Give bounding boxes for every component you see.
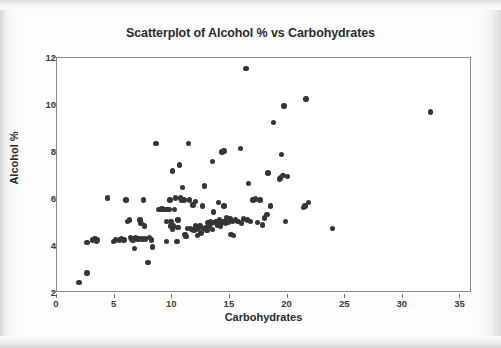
y-axis-tick-mark	[52, 245, 56, 246]
scatter-point	[221, 148, 226, 153]
scatter-point	[243, 66, 248, 71]
scatter-point	[94, 239, 99, 244]
x-axis-tick-mark	[114, 294, 115, 298]
scatter-point	[200, 203, 205, 208]
scatter-point	[183, 234, 188, 239]
scatter-point	[127, 217, 132, 222]
scatter-point	[164, 239, 169, 244]
y-axis-tick-mark	[52, 104, 56, 105]
scatter-point	[303, 96, 308, 101]
scatter-point	[330, 226, 335, 231]
chart-page: Scatterplot of Alcohol % vs Carbohydrate…	[0, 0, 501, 348]
x-axis-tick-label: 15	[217, 298, 241, 309]
scatter-point	[105, 195, 110, 200]
x-axis-tick-mark	[171, 294, 172, 298]
scatter-point	[248, 219, 253, 224]
scatter-point	[177, 162, 182, 167]
y-axis-label: Alcohol %	[8, 118, 20, 198]
scatter-point	[149, 237, 154, 242]
scatter-point	[231, 233, 236, 238]
scatter-point	[186, 141, 191, 146]
x-axis-tick-label: 0	[44, 298, 68, 309]
scatter-point	[193, 199, 198, 204]
scatter-point	[142, 223, 147, 228]
scatter-point	[202, 183, 207, 188]
scatter-point	[285, 174, 290, 179]
y-axis-tick-mark	[52, 292, 56, 293]
x-axis-tick-mark	[56, 294, 57, 298]
x-axis-tick-label: 35	[447, 298, 471, 309]
scatter-point	[121, 237, 126, 242]
scatter-point	[260, 222, 265, 227]
scatter-point	[239, 221, 244, 226]
x-axis-tick-label: 5	[102, 298, 126, 309]
scatter-point	[216, 200, 221, 205]
x-axis-tick-mark	[459, 294, 460, 298]
scatter-point	[198, 230, 203, 235]
scatter-point	[141, 197, 146, 202]
x-axis-tick-mark	[229, 294, 230, 298]
x-axis-ticks: 05101520253035	[56, 294, 471, 310]
scatter-point	[268, 203, 273, 208]
scatter-point	[246, 181, 251, 186]
scatter-point	[210, 159, 215, 164]
scatter-point	[265, 170, 270, 175]
scatter-point	[175, 225, 180, 230]
scatter-point	[84, 270, 89, 275]
x-axis-tick-mark	[287, 294, 288, 298]
page-title: Scatterplot of Alcohol % vs Carbohydrate…	[0, 26, 501, 40]
x-axis-tick-mark	[402, 294, 403, 298]
scatter-point	[238, 146, 243, 151]
plot-area[interactable]	[56, 57, 471, 292]
scatter-point	[170, 168, 175, 173]
scatter-point	[150, 244, 155, 249]
scatter-point	[306, 200, 311, 205]
y-axis-tick-marks	[52, 57, 56, 292]
x-axis-tick-label: 20	[275, 298, 299, 309]
scatter-point	[281, 103, 286, 108]
x-axis-tick-label: 10	[159, 298, 183, 309]
scatter-point	[204, 228, 209, 233]
scatter-point	[283, 219, 288, 224]
y-axis-tick-mark	[52, 151, 56, 152]
y-axis-tick-mark	[52, 57, 56, 58]
x-axis-tick-mark	[344, 294, 345, 298]
scatter-point	[132, 246, 137, 251]
scatter-point	[211, 209, 216, 214]
x-axis-label: Carbohydrates	[56, 311, 471, 323]
scatter-point	[210, 227, 215, 232]
y-axis-tick-mark	[52, 198, 56, 199]
scatter-point	[76, 280, 81, 285]
scatter-point	[166, 207, 171, 212]
x-axis-tick-label: 30	[390, 298, 414, 309]
x-axis-tick-label: 25	[332, 298, 356, 309]
scatter-point	[279, 152, 284, 157]
scatter-point	[174, 239, 179, 244]
scatter-point	[181, 197, 186, 202]
scatter-point	[172, 207, 177, 212]
scatter-point	[264, 212, 269, 217]
scatter-point	[175, 217, 180, 222]
scatter-point	[167, 197, 172, 202]
scatter-point	[153, 141, 158, 146]
scatter-point	[123, 197, 128, 202]
scatter-point	[257, 197, 262, 202]
scatter-point	[428, 109, 433, 114]
scatter-point	[180, 185, 185, 190]
scatter-point	[145, 260, 150, 265]
scatter-point	[271, 120, 276, 125]
scatter-point	[84, 240, 89, 245]
scatter-point	[221, 203, 226, 208]
